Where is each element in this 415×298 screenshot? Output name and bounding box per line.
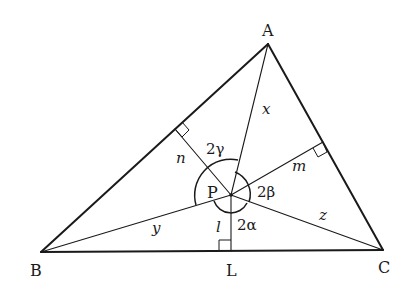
segment-label-m: m <box>292 157 306 175</box>
angle-label-beta: 2β <box>257 183 275 201</box>
triangle-diagram: A B C L P x y z l m n 2γ 2β 2α <box>0 0 415 298</box>
point-p-dot <box>229 193 233 197</box>
right-angle-marker-l <box>219 240 231 251</box>
right-angle-marker-n <box>175 122 189 137</box>
segment-pb <box>41 195 231 252</box>
point-label-l: L <box>226 261 237 280</box>
perpendicular-m <box>231 142 323 195</box>
angle-label-gamma: 2γ <box>206 140 225 158</box>
vertex-label-b: B <box>30 261 42 280</box>
angle-label-alpha: 2α <box>237 216 257 234</box>
vertex-label-a: A <box>261 21 274 40</box>
segment-label-x: x <box>262 100 271 118</box>
segment-label-y: y <box>151 219 161 237</box>
side-bc <box>41 250 383 252</box>
point-label-p: P <box>207 183 218 202</box>
segment-label-n: n <box>176 149 186 167</box>
segment-label-l: l <box>216 218 221 236</box>
segment-label-z: z <box>318 206 327 224</box>
vertex-label-c: C <box>378 258 390 277</box>
